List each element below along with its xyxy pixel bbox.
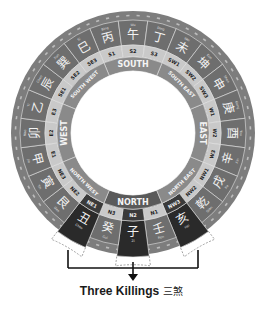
arrow-down-icon [128,274,138,281]
caption-title-chinese: 三煞 [163,286,183,297]
mountain-name-e2: Mao [23,130,27,137]
rim-tick-mark [15,126,17,129]
rim-tick-mark [15,136,17,139]
three-killings-compass-diagram: 丙BingS1午WuS2丁DingS3未WeiSW1坤KunSW2申ShenSW… [0,0,263,309]
mountain-name-s2: Wu [130,23,135,27]
mountain-char-n2: 子 [127,225,139,239]
direction-label-south: SOUTH [117,60,148,69]
mountain-code-e2: E2 [48,129,54,136]
mountain-char-e2: 卯 [28,127,42,139]
direction-label-north: NORTH [117,198,148,207]
mountain-code-s2: S2 [129,48,137,54]
mountain-name-n2: Zi [131,239,134,243]
mountain-code-n2: N2 [129,212,137,218]
rim-tick-mark [250,136,252,139]
compass-rings: 丙BingS1午WuS2丁DingS3未WeiSW1坤KunSW2申ShenSW… [11,11,255,266]
mountain-code-w2: W2 [212,129,218,139]
mountain-char-w2: 酉 [225,127,239,139]
compass-center [71,71,195,195]
caption: Three Killings三煞 [0,283,263,298]
mountain-name-w2: You [239,130,243,136]
mountain-char-s2: 午 [127,28,139,42]
direction-label-west: WEST [60,120,69,146]
caption-title: Three Killings [80,284,159,298]
rim-tick-mark [126,15,129,17]
direction-label-east: EAST [198,122,207,145]
rim-tick-mark [136,15,139,17]
rim-tick-mark [250,126,252,129]
